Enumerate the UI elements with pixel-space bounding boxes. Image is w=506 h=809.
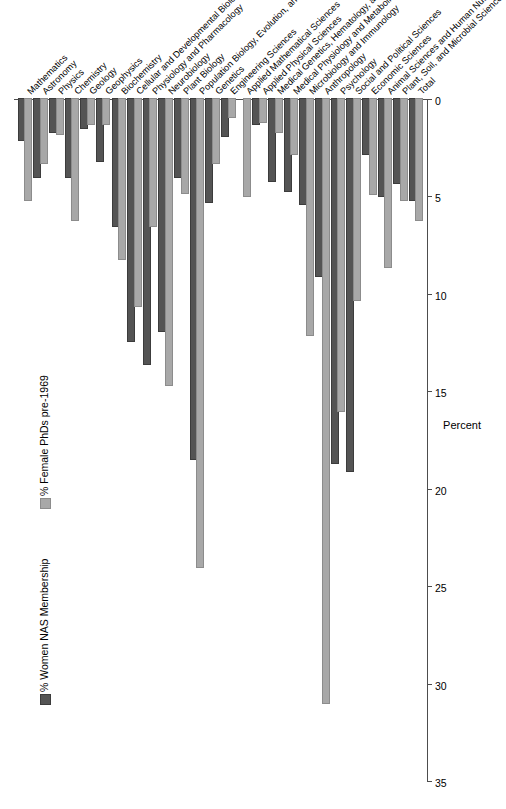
bar-phd [228,98,236,118]
value-tick [427,99,432,100]
bar-phd [181,98,189,194]
bar-phd [306,98,314,336]
bar-phd [337,98,345,412]
value-tick [427,684,432,685]
bar-phd [24,98,32,201]
bar-phd [134,98,142,307]
legend-swatch-icon [40,498,51,509]
bar-phd [87,98,95,125]
bar-phd [400,98,408,201]
value-axis-line [427,100,428,782]
bar-phd [369,98,377,195]
value-tick [427,391,432,392]
bar-phd [149,98,157,227]
value-tick [427,294,432,295]
bar-phd [290,98,298,155]
legend-label: % Women NAS Membership [39,559,50,692]
bar-phd [56,98,64,135]
value-tick-label: 5 [435,193,441,204]
value-tick-label: 20 [435,486,447,497]
legend-label: % Female PhDs pre-1969 [39,375,50,496]
bar-phd [259,98,267,123]
bar-phd [196,98,204,568]
bar-phd [353,98,361,301]
value-tick [427,586,432,587]
bar-phd [322,98,330,704]
value-tick-label: 15 [435,388,447,399]
bar-phd [415,98,423,221]
bar-phd [71,98,79,221]
value-tick [427,781,432,782]
value-tick-label: 35 [435,778,447,789]
bar-phd [243,98,251,197]
bar-phd [165,98,173,386]
bar-phd [40,98,48,164]
y-axis-title: Percent [443,419,481,431]
bar-phd [212,98,220,164]
value-tick [427,196,432,197]
value-tick-label: 10 [435,291,447,302]
value-tick-label: 0 [435,96,441,107]
bar-phd [118,98,126,260]
legend-swatch-icon [40,694,51,705]
bar-phd [384,98,392,268]
bar-phd [275,98,283,133]
value-tick-label: 25 [435,583,447,594]
value-tick-label: 30 [435,681,447,692]
bar-phd [102,98,110,125]
value-tick [427,489,432,490]
